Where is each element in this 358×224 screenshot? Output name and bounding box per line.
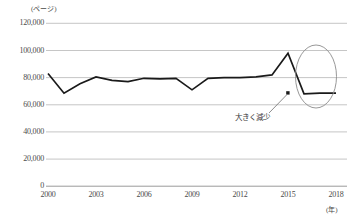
x-tick-2009: 2009 [172, 191, 212, 199]
x-tick-2003: 2003 [76, 191, 116, 199]
y-tick-0: 0 [0, 182, 44, 190]
y-tick-40000: 40,000 [0, 128, 44, 136]
y-tick-label: 40,000 [4, 128, 44, 136]
x-tick-2000: 2000 [28, 191, 68, 199]
y-tick-label: 20,000 [4, 155, 44, 163]
annotation-large-decrease: 大きく減少 [235, 113, 270, 122]
y-tick-60000: 60,000 [0, 101, 44, 109]
y-tick-label: 60,000 [4, 101, 44, 109]
y-tick-100000: 100,000 [0, 47, 44, 55]
x-tick-2015: 2015 [268, 191, 308, 199]
y-tick-120000: 120,000 [0, 19, 44, 27]
y-tick-20000: 20,000 [0, 155, 44, 163]
callout-marker-dot [286, 91, 289, 94]
series-line-pages [48, 53, 336, 94]
y-tick-label: 100,000 [4, 47, 44, 55]
x-axis-unit-label: (年) [326, 206, 338, 214]
callout-leader-line [269, 95, 287, 114]
y-axis-unit-label: (ページ) [31, 5, 57, 13]
y-tick-label: 0 [4, 182, 44, 190]
x-tick-2018: 2018 [316, 191, 356, 199]
y-tick-label: 120,000 [4, 19, 44, 27]
gridlines-group [46, 23, 347, 186]
highlight-ellipse [296, 45, 337, 108]
x-tick-2006: 2006 [124, 191, 164, 199]
y-tick-label: 80,000 [4, 74, 44, 82]
x-tick-2012: 2012 [220, 191, 260, 199]
y-tick-80000: 80,000 [0, 74, 44, 82]
chart-container: (ページ) (年) 120,000 100,000 80,000 60,000 … [0, 0, 358, 224]
